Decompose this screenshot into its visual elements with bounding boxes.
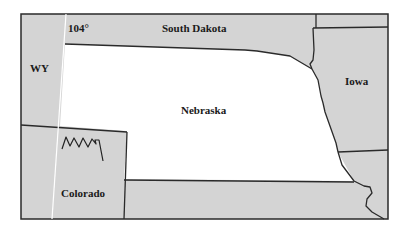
label-south-dakota: South Dakota [162, 22, 227, 34]
label-iowa: Iowa [345, 75, 368, 87]
label-meridian-104: 104° [68, 22, 89, 34]
label-colorado: Colorado [61, 187, 105, 199]
label-wyoming: WY [30, 62, 49, 74]
label-nebraska: Nebraska [181, 104, 226, 116]
